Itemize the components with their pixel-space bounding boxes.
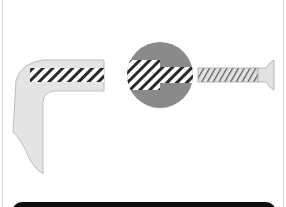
diagram-canvas — [0, 0, 286, 207]
screw-head — [258, 60, 274, 90]
l-bracket — [13, 60, 104, 174]
screw — [198, 60, 274, 90]
bottom-bar — [12, 202, 276, 207]
screw-threads — [198, 68, 258, 82]
illustration — [0, 0, 286, 207]
bracket-hatched-section — [30, 68, 104, 82]
magnified-joint — [126, 42, 194, 108]
